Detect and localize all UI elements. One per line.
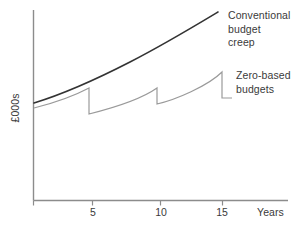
- chart-figure: Conventional budget creep Zero-based bud…: [0, 0, 306, 235]
- annotation-zero-based-budgets: Zero-based budgets: [236, 69, 291, 96]
- annotation-zero-based-line-2: budgets: [236, 83, 291, 97]
- annotation-conventional-line-3: creep: [228, 36, 291, 50]
- y-axis-label: £000s: [9, 81, 21, 135]
- annotation-conventional-line-1: Conventional: [228, 9, 291, 23]
- series-conventional-budget-creep: [34, 12, 218, 103]
- annotation-conventional-budget-creep: Conventional budget creep: [228, 9, 291, 50]
- x-tick-label-15: 15: [210, 206, 234, 218]
- x-tick-label-5: 5: [81, 206, 105, 218]
- x-tick-label-10: 10: [149, 206, 173, 218]
- annotation-zero-based-line-1: Zero-based: [236, 69, 291, 83]
- annotation-conventional-line-2: budget: [228, 23, 291, 37]
- x-axis-label: Years: [257, 206, 284, 218]
